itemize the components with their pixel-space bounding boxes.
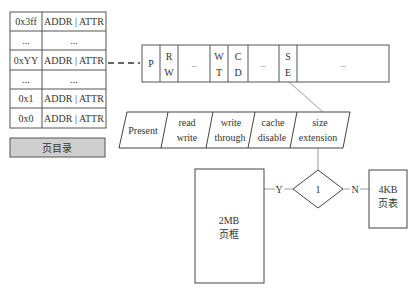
page-frame-2mb-box	[195, 169, 264, 283]
page-directory-table	[10, 12, 106, 128]
page-table-4kb-line1: 4KB	[379, 184, 398, 195]
flag-present: Present	[128, 125, 158, 136]
bit-ellipsis: ...	[191, 61, 197, 69]
page-frame-2mb-line2: 页框	[219, 228, 239, 240]
bit-ellipsis: ...	[260, 61, 266, 69]
pd-row-index: ...	[22, 35, 30, 46]
pd-row-index: 0x0	[19, 113, 34, 124]
flag-cd-line1: cache	[262, 117, 285, 128]
pd-row-value: ...	[70, 74, 78, 85]
pd-row-value: ADDR | ATTR	[44, 55, 104, 66]
flag-wt-line1: write	[221, 117, 242, 128]
bit-rw-bottom: W	[164, 67, 174, 78]
flag-se-line2: extension	[299, 132, 337, 143]
pd-row-value: ADDR | ATTR	[44, 16, 104, 27]
bit-se-bottom: E	[285, 67, 291, 78]
bit-ellipsis: ...	[340, 61, 346, 69]
pd-row-index: ...	[22, 74, 30, 85]
page-table-4kb-line2: 页表	[378, 197, 398, 209]
pd-row-value: ADDR | ATTR	[44, 93, 104, 104]
se-connector	[289, 82, 323, 112]
bit-se-top: S	[285, 51, 291, 62]
yes-label: Y	[275, 184, 282, 195]
no-label: N	[351, 184, 358, 195]
decision-value: 1	[316, 184, 321, 195]
bit-cd-top: C	[235, 51, 242, 62]
flag-rw-line1: read	[178, 117, 195, 128]
bit-wt-bottom: T	[216, 67, 222, 78]
pd-row-index: 0x3ff	[15, 16, 37, 27]
page-directory-label: 页目录	[42, 143, 72, 154]
pd-row-index: 0x1	[19, 93, 34, 104]
flag-wt-line2: through	[214, 132, 245, 143]
bit-rw-top: R	[166, 51, 173, 62]
pd-row-value: ...	[70, 35, 78, 46]
bit-cd-bottom: D	[234, 67, 241, 78]
flag-se-line1: size	[312, 117, 328, 128]
pd-row-value: ADDR | ATTR	[44, 113, 104, 124]
bit-p: P	[148, 58, 154, 69]
bit-wt-top: W	[214, 51, 224, 62]
flag-rw-line2: write	[177, 132, 198, 143]
pd-row-index: 0xYY	[14, 55, 38, 66]
flag-cd-line2: disable	[258, 132, 287, 143]
diagram-canvas: 0x3ff ADDR | ATTR ... ... 0xYY ADDR | AT…	[0, 0, 417, 296]
page-frame-2mb-line1: 2MB	[219, 215, 240, 226]
